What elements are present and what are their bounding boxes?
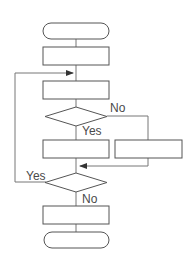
edge-alt-merge [80,158,148,166]
edge-decision1-no [107,116,148,140]
decision1-no-label: No [110,101,126,115]
start-terminal [43,23,109,39]
process-box-4 [43,206,109,224]
end-terminal [44,232,109,248]
process-box-1 [43,47,109,65]
process-box-alt [115,140,182,158]
process-box-2 [43,81,109,99]
decision2-yes-label: Yes [26,169,46,183]
process-box-3 [43,140,109,158]
decision-diamond-2 [45,173,107,192]
flowchart: No Yes Yes No [0,0,193,268]
decision1-yes-label: Yes [82,124,102,138]
decision2-no-label: No [82,192,98,206]
